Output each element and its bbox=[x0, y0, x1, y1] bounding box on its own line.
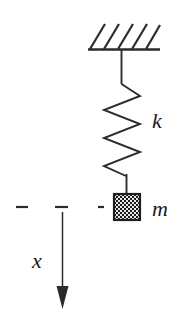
arrow-head bbox=[57, 286, 69, 309]
displacement-arrow bbox=[57, 212, 69, 309]
mass-block bbox=[114, 194, 140, 220]
hatch-line bbox=[104, 24, 119, 49]
coil-spring bbox=[104, 84, 140, 176]
diagram-canvas: k m x bbox=[0, 0, 189, 329]
hatch-line bbox=[118, 24, 133, 49]
displacement-label: x bbox=[31, 248, 42, 273]
mass-label: m bbox=[152, 196, 168, 221]
hatch-line bbox=[146, 25, 160, 49]
spring-constant-label: k bbox=[152, 108, 163, 133]
mass-spring-diagram: k m x bbox=[0, 0, 189, 329]
fixed-support bbox=[88, 24, 160, 50]
hatch-line bbox=[90, 24, 105, 49]
hatch-line bbox=[132, 24, 147, 49]
hatch-lines-group bbox=[90, 24, 160, 49]
